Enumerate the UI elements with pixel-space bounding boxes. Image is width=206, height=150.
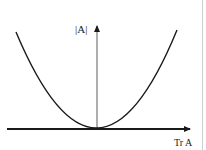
plot-canvas: |A| Tr A [0, 0, 206, 150]
page-edge-line [202, 0, 203, 150]
y-axis-label: |A| [75, 23, 87, 35]
diagram-figure: |A| Tr A [0, 0, 206, 150]
parabola-curve [16, 30, 177, 128]
x-axis-label: Tr A [174, 137, 193, 148]
